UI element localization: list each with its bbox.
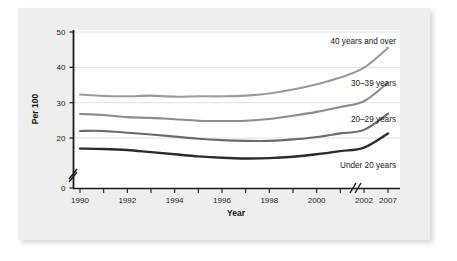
- line-chart-svg: 020304050 199019921994199619982000200220…: [0, 0, 457, 261]
- x-axis-tick-label: 1998: [260, 196, 278, 205]
- series-label: 40 years and over: [330, 37, 396, 46]
- y-axis-tick-label: 30: [57, 99, 66, 108]
- y-axis-tick-label: 0: [61, 184, 66, 193]
- x-axis-tick-label: 2000: [308, 196, 326, 205]
- x-axis-tick-label: 1994: [166, 196, 184, 205]
- x-axis-tick-label: 2007: [379, 196, 397, 205]
- x-axis-tick-label: 1990: [71, 196, 89, 205]
- x-axis-ticks-group: 19901992199419961998200020022007: [71, 188, 397, 205]
- series-label: 30–39 years: [351, 79, 396, 88]
- series-label: 20–29 years: [351, 115, 396, 124]
- chart-canvas: 020304050 199019921994199619982000200220…: [0, 0, 457, 261]
- x-axis-tick-label: 1992: [118, 196, 136, 205]
- series-label: Under 20 years: [340, 161, 396, 170]
- y-axis-tick-label: 50: [57, 28, 66, 37]
- y-axis-title: Per 100: [30, 94, 40, 125]
- figure-root: 020304050 199019921994199619982000200220…: [0, 0, 457, 261]
- y-axis-ticks-group: 020304050: [57, 28, 74, 193]
- y-axis-tick-label: 20: [57, 134, 66, 143]
- x-axis-tick-label: 1996: [213, 196, 231, 205]
- y-axis-tick-label: 40: [57, 63, 66, 72]
- x-axis-tick-label: 2002: [355, 196, 373, 205]
- x-axis-title: Year: [227, 208, 246, 218]
